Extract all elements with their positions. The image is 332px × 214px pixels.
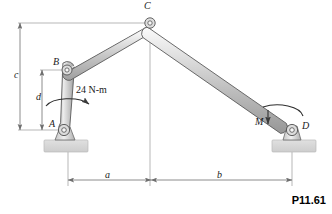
dimension-label-b: b xyxy=(217,170,222,180)
dimension-label-c: c xyxy=(14,70,18,80)
joint-label-b: B xyxy=(53,57,59,67)
figure-container: C B A D 24 N-m M c d a b P11.61 xyxy=(0,0,332,214)
ground-supports xyxy=(44,140,316,152)
joint-pin-c-inner xyxy=(148,21,152,25)
dimension-label-d: d xyxy=(36,92,41,102)
joint-pin-b-inner xyxy=(65,68,69,72)
dimension-label-a: a xyxy=(105,170,110,180)
moment-label-m: M xyxy=(255,117,263,127)
ground-support-left xyxy=(44,140,88,152)
link-cd-highlight xyxy=(149,26,288,122)
link-cd xyxy=(142,26,288,134)
joint-pin-d-inner xyxy=(290,128,295,133)
joint-label-c: C xyxy=(144,1,151,11)
mechanism-drawing xyxy=(0,0,332,214)
joint-pin-a-inner xyxy=(62,128,67,133)
joint-label-d: D xyxy=(302,121,309,131)
link-bc xyxy=(62,25,152,80)
vertical-dimension-lines xyxy=(20,23,42,130)
pin-brackets xyxy=(55,126,301,140)
link-bc-highlight xyxy=(65,25,148,71)
moment-label-24nm: 24 N-m xyxy=(76,85,107,95)
figure-number: P11.61 xyxy=(292,194,326,206)
link-cd-body xyxy=(142,27,288,133)
ground-support-right xyxy=(272,140,316,152)
joint-label-a: A xyxy=(49,119,55,129)
link-bc-body xyxy=(62,28,152,81)
